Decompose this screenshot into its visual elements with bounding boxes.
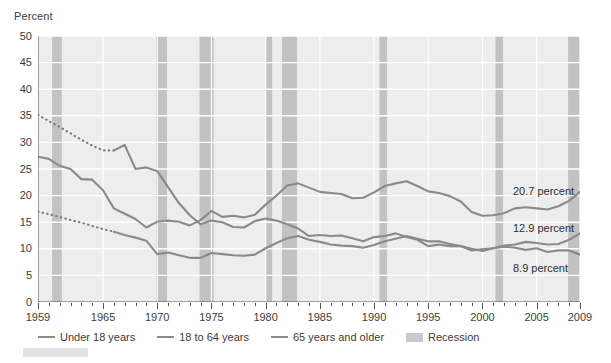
recession-swatch-icon (406, 333, 423, 342)
x-axis-tick-mark (38, 303, 39, 309)
x-axis-tick-mark (504, 303, 505, 306)
x-axis-tick-label: 2009 (558, 312, 602, 323)
chart-svg (38, 36, 580, 302)
x-axis-tick-mark (125, 303, 126, 306)
series-end-label: 12.9 percent (513, 222, 574, 234)
legend-item-label: Under 18 years (60, 331, 135, 343)
series-end-label: 20.7 percent (513, 185, 574, 197)
x-axis-tick-mark (114, 303, 115, 306)
y-axis-tick-label: 50 (6, 31, 32, 42)
x-axis-tick-mark (331, 303, 332, 306)
x-axis-tick-label: 1990 (352, 312, 396, 323)
x-axis-tick-mark (92, 303, 93, 306)
y-axis-tick-label: 25 (6, 164, 32, 175)
x-axis-tick-mark (287, 303, 288, 306)
x-axis-tick-mark (450, 303, 451, 306)
y-axis-tick-label: 5 (6, 270, 32, 281)
x-axis-tick-mark (222, 303, 223, 306)
x-axis-tick-mark (580, 303, 581, 309)
x-axis-tick-mark (515, 303, 516, 306)
y-axis-tick-label: 20 (6, 190, 32, 201)
x-axis-tick-mark (493, 303, 494, 306)
x-axis-tick-mark (482, 303, 483, 309)
x-axis-tick-mark (201, 303, 202, 306)
x-axis-tick-mark (417, 303, 418, 306)
legend-item-label: Recession (428, 331, 479, 343)
x-axis-tick-label: 1980 (244, 312, 288, 323)
x-axis-tick-mark (407, 303, 408, 306)
footer-swatch (23, 348, 88, 357)
x-axis-tick-mark (71, 303, 72, 306)
legend-item-label: 65 years and older (293, 331, 384, 343)
legend-item[interactable]: Under 18 years (38, 331, 135, 343)
legend-item[interactable]: Recession (406, 331, 479, 343)
y-axis-tick-label: 35 (6, 110, 32, 121)
x-axis-tick-mark (157, 303, 158, 309)
x-axis-tick-mark (276, 303, 277, 306)
x-axis-tick-mark (81, 303, 82, 306)
x-axis-tick-mark (136, 303, 137, 306)
x-axis-tick-mark (428, 303, 429, 309)
x-axis-tick-mark (190, 303, 191, 306)
x-axis-tick-mark (374, 303, 375, 309)
x-axis-tick-mark (244, 303, 245, 306)
x-axis-tick-mark (146, 303, 147, 306)
x-axis-tick-label: 1975 (189, 312, 233, 323)
x-axis-tick-mark (49, 303, 50, 306)
x-axis-tick-label: 1965 (81, 312, 125, 323)
x-axis-tick-mark (168, 303, 169, 306)
x-axis-tick-mark (547, 303, 548, 306)
x-axis-tick-mark (439, 303, 440, 306)
y-axis-title: Percent (14, 10, 53, 22)
x-axis-tick-mark (461, 303, 462, 306)
x-axis-tick-mark (396, 303, 397, 306)
legend-item[interactable]: 65 years and older (271, 331, 384, 343)
y-axis-tick-label: 45 (6, 57, 32, 68)
x-axis-tick-mark (558, 303, 559, 306)
y-axis-tick-label: 40 (6, 84, 32, 95)
y-axis-tick-label: 0 (6, 297, 32, 308)
x-axis-tick-label: 1995 (406, 312, 450, 323)
legend-line-icon (271, 336, 288, 338)
y-axis-tick-label: 10 (6, 243, 32, 254)
x-axis-tick-mark (266, 303, 267, 309)
y-axis-tick-label: 30 (6, 137, 32, 148)
chart-legend: Under 18 years18 to 64 years65 years and… (38, 330, 501, 344)
x-axis-tick-mark (309, 303, 310, 306)
chart-plot-area (38, 36, 580, 302)
x-axis-tick-mark (537, 303, 538, 309)
series-end-label: 8.9 percent (513, 262, 568, 274)
y-axis-tick-label: 15 (6, 217, 32, 228)
x-axis-tick-mark (320, 303, 321, 309)
x-axis-tick-mark (60, 303, 61, 306)
x-axis-tick-mark (385, 303, 386, 306)
x-axis-tick-label: 2005 (515, 312, 559, 323)
x-axis-tick-mark (342, 303, 343, 306)
legend-item-label: 18 to 64 years (179, 331, 249, 343)
x-axis-tick-mark (569, 303, 570, 306)
x-axis-tick-mark (298, 303, 299, 306)
x-axis-tick-label: 1985 (298, 312, 342, 323)
x-axis-tick-label: 1970 (135, 312, 179, 323)
legend-item[interactable]: 18 to 64 years (157, 331, 249, 343)
x-axis-tick-mark (352, 303, 353, 306)
x-axis-tick-mark (233, 303, 234, 306)
x-axis-tick-mark (179, 303, 180, 306)
x-axis-tick-mark (103, 303, 104, 309)
x-axis-tick-label: 1959 (16, 312, 60, 323)
x-axis-tick-mark (526, 303, 527, 306)
x-axis-tick-mark (472, 303, 473, 306)
x-axis-tick-mark (363, 303, 364, 306)
x-axis-tick-label: 2000 (460, 312, 504, 323)
legend-line-icon (157, 336, 174, 338)
x-axis-tick-mark (255, 303, 256, 306)
x-axis-tick-mark (211, 303, 212, 309)
legend-line-icon (38, 336, 55, 338)
